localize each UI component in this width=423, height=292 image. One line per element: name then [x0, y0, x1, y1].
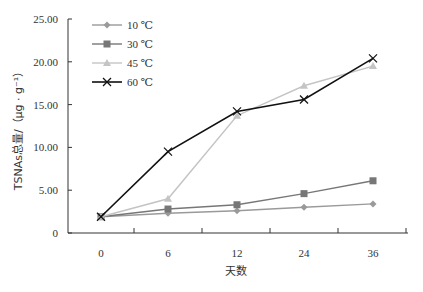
y-tick-label: 15.00	[33, 99, 58, 111]
y-axis-title: TSNAs总量/（μg · g⁻¹）	[11, 66, 25, 192]
line-chart: 05.0010.0015.0020.0025.0006122436天数TSNAs…	[0, 0, 423, 292]
y-tick-label: 20.00	[33, 56, 58, 68]
x-tick-label: 0	[98, 247, 104, 259]
x-tick-label: 12	[232, 247, 243, 259]
legend-label: 30 ℃	[127, 38, 153, 50]
x-axis-title: 天数	[225, 265, 247, 278]
y-tick-label: 25.00	[33, 13, 58, 25]
legend-item: 60 ℃	[92, 76, 153, 88]
x-tick-label: 6	[165, 247, 171, 259]
legend-item: 10 ℃	[92, 19, 153, 31]
legend: 10 ℃30 ℃45 ℃60 ℃	[92, 19, 153, 88]
y-tick-label: 10.00	[33, 141, 58, 153]
y-tick-label: 5.00	[39, 184, 59, 196]
legend-item: 30 ℃	[92, 38, 153, 50]
legend-label: 10 ℃	[127, 19, 153, 31]
x-tick-label: 24	[299, 247, 311, 259]
legend-item: 45 ℃	[92, 57, 153, 69]
y-tick-label: 0	[53, 227, 59, 239]
x-tick-label: 36	[368, 247, 380, 259]
axes: 05.0010.0015.0020.0025.0006122436天数TSNAs…	[11, 13, 408, 278]
legend-label: 60 ℃	[127, 76, 153, 88]
legend-label: 45 ℃	[127, 57, 153, 69]
